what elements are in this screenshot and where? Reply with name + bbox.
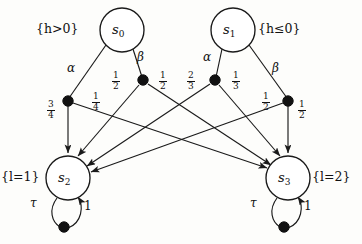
state-label-s0: s0 — [112, 23, 124, 39]
transition-edge-d2-s3 — [219, 85, 280, 156]
self-loop-s3-out — [272, 198, 280, 227]
prob-label-d1-s3: 12 — [159, 71, 167, 92]
action-label-s2-tau: τ — [30, 197, 37, 209]
self-loop-s2-in — [68, 197, 81, 228]
action-label-s0-beta: β — [137, 51, 144, 63]
prob-dot-s1-alpha — [210, 75, 220, 85]
prob-label-d2-s3: 13 — [232, 71, 240, 92]
transition-edge-d0-s3 — [73, 103, 267, 168]
atomic-prop-s2: {l=1} — [1, 171, 39, 184]
prob-label-d1-s2: 12 — [112, 71, 120, 92]
state-label-s3: s3 — [278, 171, 290, 187]
action-edge-s1-alpha — [216, 49, 222, 77]
prob-label-d0-s3: 14 — [92, 92, 100, 113]
prob-dot-s3-tau — [279, 222, 289, 232]
prob-dot-s0-beta — [138, 75, 148, 85]
prob-label-d0-s2: 34 — [47, 100, 55, 121]
action-label-s1-beta: β — [272, 62, 279, 74]
action-label-s0-alpha: α — [67, 62, 75, 74]
self-loop-s3-in — [288, 197, 301, 228]
self-loop-s2-out — [52, 198, 60, 227]
mdp-diagram-figure: s0 s1 s2 s3 {h>0} {h≤0} {l=1} {l=2} α β … — [0, 0, 362, 244]
transition-edges — [68, 84, 288, 172]
prob-label-d4-s2: 1 — [84, 200, 92, 212]
atomic-prop-s1: {h≤0} — [258, 23, 300, 36]
action-label-s1-alpha: α — [203, 51, 211, 63]
prob-label-d2-s2: 23 — [187, 71, 195, 92]
transition-edge-d2-s2 — [87, 84, 210, 166]
atomic-prop-s0: {h>0} — [36, 23, 78, 36]
state-label-s1: s1 — [223, 23, 235, 39]
atomic-prop-s3: {l=2} — [312, 171, 350, 184]
action-edges — [69, 45, 287, 98]
prob-dot-s1-beta — [283, 96, 293, 106]
transition-edge-d3-s2 — [91, 103, 283, 172]
action-label-s3-tau: τ — [250, 197, 257, 209]
transition-edge-d1-s2 — [78, 85, 139, 156]
prob-dot-s0-alpha — [63, 96, 73, 106]
prob-label-d5-s3: 1 — [304, 200, 312, 212]
prob-label-d3-s3: 12 — [298, 100, 306, 121]
state-label-s2: s2 — [58, 171, 70, 187]
prob-dot-s2-tau — [59, 222, 69, 232]
prob-label-d3-s2: 12 — [262, 92, 270, 113]
